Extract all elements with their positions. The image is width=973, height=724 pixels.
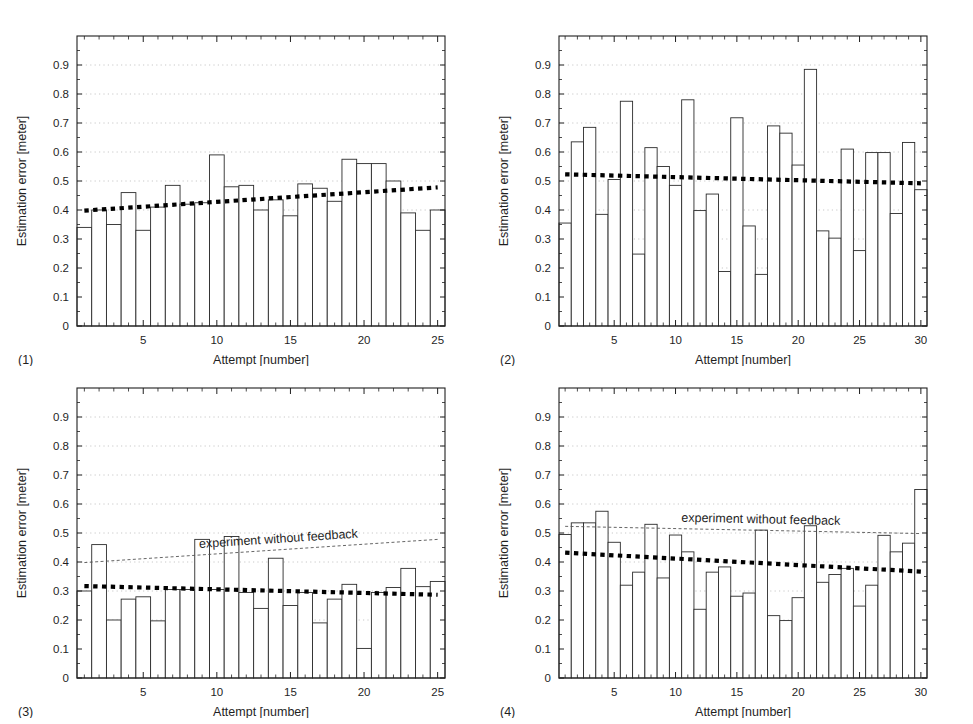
bar (694, 609, 706, 678)
trend-line (84, 586, 437, 595)
bar (239, 592, 254, 678)
x-tick-label: 20 (358, 334, 371, 346)
bar (180, 204, 195, 326)
bar (718, 271, 730, 326)
y-tick-label: 0.6 (535, 498, 551, 510)
bar (327, 599, 342, 678)
bar (371, 164, 386, 326)
x-tick-label: 20 (792, 686, 805, 698)
panel-1: 00.10.20.30.40.50.60.70.80.9510152025Att… (0, 6, 491, 366)
bar (792, 598, 804, 678)
bar (180, 590, 195, 678)
bar (718, 567, 730, 678)
bar (853, 251, 865, 326)
x-tick-label: 5 (611, 686, 617, 698)
x-tick-label: 15 (730, 686, 743, 698)
x-tick-label: 5 (140, 686, 146, 698)
y-tick-label: 0.8 (535, 440, 551, 452)
bar (224, 536, 239, 678)
y-tick-label: 0.9 (535, 59, 551, 71)
bar (136, 597, 151, 678)
panel-2: 00.10.20.30.40.50.60.70.80.951015202530A… (482, 6, 973, 366)
y-tick-label: 0.7 (535, 469, 551, 481)
bar (371, 592, 386, 678)
chart-panel-1: 00.10.20.30.40.50.60.70.80.9510152025Att… (0, 6, 491, 366)
y-tick-label: 0.9 (535, 411, 551, 423)
bar (298, 592, 313, 678)
bar (682, 100, 694, 326)
x-tick-label: 5 (611, 334, 617, 346)
panel-label: (3) (18, 705, 33, 718)
y-tick-label: 0.8 (53, 440, 69, 452)
bar (731, 118, 743, 326)
bar (657, 167, 669, 327)
x-tick-label: 10 (210, 334, 223, 346)
y-tick-label: 0.6 (53, 146, 69, 158)
bar (165, 590, 180, 678)
bar (584, 523, 596, 678)
y-axis-title: Estimation error [meter] (15, 468, 29, 599)
x-tick-label: 15 (284, 334, 297, 346)
panel-label: (4) (500, 705, 515, 718)
y-tick-label: 0.2 (535, 262, 551, 274)
bar-series (77, 536, 445, 678)
y-tick-label: 0.7 (53, 469, 69, 481)
bar (866, 153, 878, 326)
x-tick-label: 10 (669, 334, 682, 346)
bar (780, 621, 792, 678)
bar (804, 526, 816, 678)
bar (596, 214, 608, 326)
y-tick-label: 0.3 (53, 585, 69, 597)
bar (195, 203, 210, 326)
bar (915, 490, 927, 679)
x-tick-label: 25 (431, 686, 444, 698)
bar (136, 230, 151, 326)
y-axis-title: Estimation error [meter] (497, 468, 511, 599)
bar (817, 582, 829, 678)
bar (401, 213, 416, 326)
bar (669, 185, 681, 326)
bar (254, 210, 269, 326)
x-tick-label: 30 (914, 334, 927, 346)
y-tick-label: 0.7 (53, 117, 69, 129)
bar (596, 511, 608, 678)
bar (743, 593, 755, 678)
bar (121, 193, 136, 326)
y-tick-label: 0.5 (53, 527, 69, 539)
bar (829, 574, 841, 678)
y-tick-label: 0 (63, 320, 69, 332)
bar (283, 216, 298, 326)
x-tick-label: 5 (140, 334, 146, 346)
bar (559, 223, 571, 326)
bar (755, 530, 767, 678)
x-tick-label: 20 (358, 686, 371, 698)
y-tick-label: 0.5 (53, 175, 69, 187)
annotation-experiment-without-feedback: experiment without feedback (681, 511, 841, 528)
bar (106, 620, 121, 678)
y-tick-label: 0.3 (535, 233, 551, 245)
y-axis-title: Estimation error [meter] (497, 116, 511, 247)
bar (239, 185, 254, 326)
y-tick-label: 0.2 (535, 614, 551, 626)
bar (298, 184, 313, 326)
bar (620, 585, 632, 678)
y-tick-label: 0.6 (535, 146, 551, 158)
bar (327, 201, 342, 326)
y-tick-label: 0.4 (535, 556, 552, 568)
panel-3: 00.10.20.30.40.50.60.70.80.9510152025Att… (0, 358, 491, 718)
x-tick-label: 10 (210, 686, 223, 698)
chart-panel-2: 00.10.20.30.40.50.60.70.80.951015202530A… (482, 6, 973, 366)
bar (151, 207, 166, 326)
y-tick-label: 0 (63, 672, 69, 684)
y-tick-label: 0.3 (535, 585, 551, 597)
bar (268, 200, 283, 326)
x-tick-label: 25 (853, 686, 866, 698)
x-tick-label: 10 (669, 686, 682, 698)
bar (195, 539, 210, 678)
x-tick-label: 15 (730, 334, 743, 346)
bar (342, 584, 357, 678)
bar (633, 572, 645, 678)
y-tick-label: 0.8 (53, 88, 69, 100)
bar (731, 596, 743, 678)
bar (853, 606, 865, 678)
